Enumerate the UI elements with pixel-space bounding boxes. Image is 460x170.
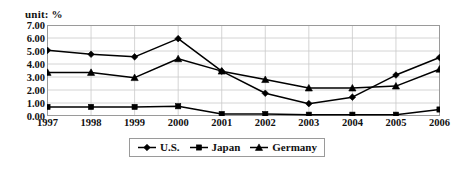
series-u-s <box>47 35 440 107</box>
data-point-marker-triangle <box>175 55 182 62</box>
legend-item[interactable]: Japan <box>189 141 241 153</box>
plot-border <box>48 26 440 116</box>
x-axis-tick-label: 2004 <box>342 117 363 128</box>
legend-item[interactable]: Germany <box>249 141 317 153</box>
x-axis-labels: 1997199819992000200120022003200420052006 <box>47 117 440 135</box>
data-point-marker-diamond <box>436 54 440 61</box>
legend-item-label: Germany <box>272 141 317 153</box>
y-axis-tick-label: 1.00 <box>1 98 45 109</box>
legend-symbol-square <box>189 142 209 153</box>
data-point-marker-diamond <box>47 47 51 54</box>
series-line <box>48 59 440 88</box>
legend-item-label: Japan <box>212 141 241 153</box>
y-axis-tick-label: 7.00 <box>1 20 45 31</box>
y-axis-tick-label: 2.00 <box>1 85 45 96</box>
series-line <box>48 39 440 104</box>
data-point-marker-square <box>196 144 201 149</box>
data-point-marker-square <box>47 104 50 109</box>
x-axis-tick-label: 2002 <box>255 117 276 128</box>
data-point-marker-diamond <box>306 100 313 107</box>
y-axis-tick-label: 3.00 <box>1 72 45 83</box>
data-point-marker-square <box>306 112 311 116</box>
data-point-marker-square <box>393 112 398 116</box>
series-line <box>48 106 440 114</box>
data-point-marker-square <box>132 104 137 109</box>
data-point-marker-diamond <box>349 94 356 101</box>
y-axis-labels: 7.006.005.004.003.002.001.000.00 <box>0 0 45 170</box>
x-axis-tick-label: 2006 <box>429 117 450 128</box>
legend-symbol-diamond <box>137 142 157 153</box>
chart-container: unit: % 7.006.005.004.003.002.001.000.00… <box>0 0 460 170</box>
x-axis-tick-label: 1997 <box>37 117 58 128</box>
x-axis-tick-label: 2005 <box>385 117 406 128</box>
chart-svg <box>47 25 440 116</box>
data-point-marker-triangle <box>436 66 440 73</box>
y-axis-tick-label: 6.00 <box>1 33 45 44</box>
data-point-marker-square <box>176 104 181 109</box>
series-germany <box>47 55 440 91</box>
data-point-marker-diamond <box>88 51 95 58</box>
y-axis-tick-label: 4.00 <box>1 59 45 70</box>
y-axis-tick-label: 5.00 <box>1 46 45 57</box>
data-point-marker-square <box>437 107 440 112</box>
x-axis-tick-label: 1999 <box>124 117 145 128</box>
x-axis-tick-label: 2001 <box>211 117 232 128</box>
data-point-marker-square <box>88 104 93 109</box>
data-point-marker-square <box>219 111 224 116</box>
plot-area <box>47 25 440 116</box>
data-point-marker-diamond <box>262 90 269 97</box>
data-point-marker-square <box>263 111 268 116</box>
data-point-marker-square <box>350 112 355 116</box>
legend-item-label: U.S. <box>160 141 180 153</box>
x-axis-tick-label: 2003 <box>298 117 319 128</box>
chart-legend: U.S.JapanGermany <box>129 138 325 157</box>
data-point-marker-diamond <box>131 54 138 61</box>
data-point-marker-diamond <box>144 144 151 151</box>
x-axis-tick-label: 2000 <box>168 117 189 128</box>
legend-item[interactable]: U.S. <box>137 141 180 153</box>
x-axis-tick-label: 1998 <box>81 117 102 128</box>
series-japan <box>47 104 440 116</box>
legend-symbol-triangle <box>249 142 269 153</box>
